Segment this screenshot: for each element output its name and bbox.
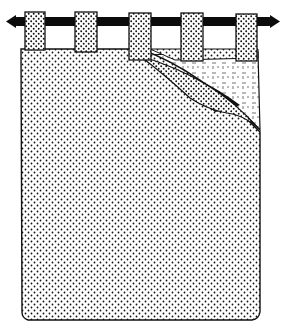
curtain-illustration (0, 0, 286, 335)
tab-3 (129, 13, 151, 60)
rod-finial-right (270, 15, 280, 28)
rod-finial-left (6, 15, 16, 28)
tab-5 (236, 14, 257, 61)
tab-1 (25, 12, 45, 50)
tab-2 (75, 12, 97, 52)
tab-4 (181, 13, 203, 61)
